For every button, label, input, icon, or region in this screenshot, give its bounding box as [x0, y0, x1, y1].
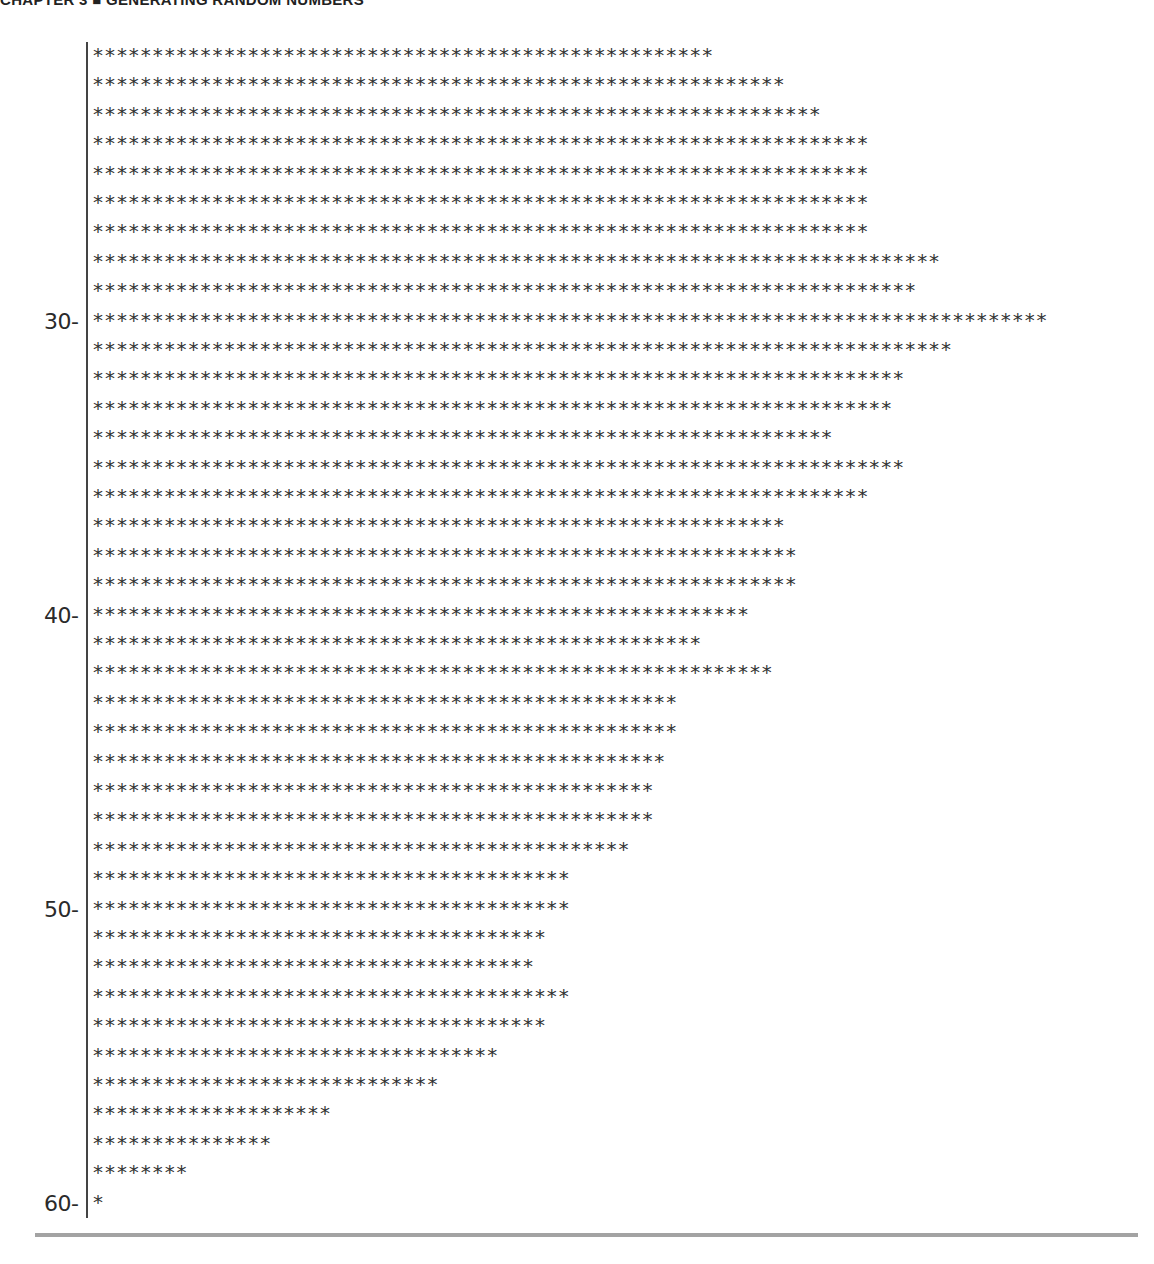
histogram-bar: ********************: [92, 1102, 331, 1126]
axis-line: [86, 542, 88, 571]
histogram-bar: **************************************: [92, 926, 546, 950]
axis-line: [86, 659, 88, 688]
histogram-bar: ****************************************…: [92, 279, 916, 303]
histogram-row: ****************************************…: [0, 542, 1154, 571]
axis-line: [86, 336, 88, 365]
axis-line: [86, 1159, 88, 1188]
axis-line: [86, 512, 88, 541]
histogram-row: 50-*************************************…: [0, 895, 1154, 924]
axis-line: [86, 630, 88, 659]
axis-line: [86, 895, 88, 924]
histogram-bar: ********: [92, 1161, 188, 1185]
axis-line: [86, 689, 88, 718]
histogram-bar: ****************************************…: [92, 338, 952, 362]
running-head: CHAPTER 3 ■ GENERATING RANDOM NUMBERS: [0, 0, 364, 8]
axis-line: [86, 189, 88, 218]
histogram-row: ********************: [0, 1100, 1154, 1129]
histogram-row: 60-*: [0, 1189, 1154, 1218]
axis-line: [86, 777, 88, 806]
histogram-bar: ****************************************…: [92, 103, 821, 127]
axis-tick-label: 40-: [44, 603, 86, 628]
axis-line: [86, 1130, 88, 1159]
histogram-row: ****************************************…: [0, 336, 1154, 365]
histogram-row: ****************************************…: [0, 365, 1154, 394]
axis-line: [86, 601, 88, 630]
histogram-bar: **************************************: [92, 1014, 546, 1038]
axis-line: [86, 1042, 88, 1071]
axis-tick-label: 50-: [44, 897, 86, 922]
histogram-bar: ****************************************…: [92, 250, 940, 274]
histogram-bar: ****************************************…: [92, 838, 629, 862]
histogram-bar: ****************************************…: [92, 750, 665, 774]
histogram-row: ****************************************…: [0, 748, 1154, 777]
histogram-bar: ****************************************: [92, 867, 570, 891]
histogram-bar: ****************************************…: [92, 309, 1048, 333]
axis-line: [86, 836, 88, 865]
axis-line: [86, 1071, 88, 1100]
histogram-row: ****************************************…: [0, 659, 1154, 688]
histogram-bar: ****************************************: [92, 897, 570, 921]
histogram-bar: ****************************************…: [92, 44, 713, 68]
axis-line: [86, 483, 88, 512]
histogram-bar: *****************************: [92, 1073, 438, 1097]
histogram-row: **************************************: [0, 924, 1154, 953]
histogram-row: ****************************************…: [0, 483, 1154, 512]
histogram-row: ****************************************…: [0, 836, 1154, 865]
histogram-row: ****************************************…: [0, 512, 1154, 541]
histogram-bar: ****************************************…: [92, 485, 868, 509]
axis-line: [86, 248, 88, 277]
histogram-bar: ****************************************…: [92, 603, 749, 627]
histogram-bar: ****************************************…: [92, 691, 677, 715]
histogram-bar: ****************************************…: [92, 162, 868, 186]
axis-line: [86, 571, 88, 600]
histogram-row: ****************************************: [0, 983, 1154, 1012]
axis-line: [86, 101, 88, 130]
histogram-bar: ****************************************…: [92, 808, 653, 832]
histogram-row: ****************************************…: [0, 101, 1154, 130]
axis-line: [86, 806, 88, 835]
axis-line: [86, 130, 88, 159]
histogram-bar: *: [92, 1191, 104, 1215]
axis-line: [86, 924, 88, 953]
histogram-bar: ****************************************…: [92, 397, 892, 421]
histogram-row: **********************************: [0, 1042, 1154, 1071]
histogram-row: **************************************: [0, 1012, 1154, 1041]
histogram-bar: ****************************************…: [92, 456, 904, 480]
axis-line: [86, 307, 88, 336]
axis-line: [86, 277, 88, 306]
histogram-row: ****************************************…: [0, 806, 1154, 835]
histogram-bar: ****************************************…: [92, 73, 785, 97]
axis-line: [86, 424, 88, 453]
histogram-row: ****************************************…: [0, 42, 1154, 71]
histogram-bar: ****************************************…: [92, 544, 797, 568]
histogram-row: 40-*************************************…: [0, 601, 1154, 630]
axis-line: [86, 42, 88, 71]
histogram-row: ****************************************…: [0, 189, 1154, 218]
histogram-bar: ****************************************…: [92, 220, 868, 244]
axis-line: [86, 365, 88, 394]
histogram-bar: ****************************************: [92, 985, 570, 1009]
axis-line: [86, 865, 88, 894]
histogram-row: ****************************************: [0, 865, 1154, 894]
histogram-row: ****************************************…: [0, 395, 1154, 424]
histogram-bar: ****************************************…: [92, 426, 833, 450]
axis-line: [86, 718, 88, 747]
histogram-bar: ****************************************…: [92, 632, 701, 656]
histogram-bar: ****************************************…: [92, 132, 868, 156]
histogram-row: ****************************************…: [0, 777, 1154, 806]
axis-line: [86, 748, 88, 777]
histogram-bar: ****************************************…: [92, 779, 653, 803]
axis-line: [86, 1012, 88, 1041]
histogram-row: *************************************: [0, 953, 1154, 982]
histogram-row: ****************************************…: [0, 218, 1154, 247]
histogram-bar: ****************************************…: [92, 191, 868, 215]
histogram-row: *****************************: [0, 1071, 1154, 1100]
histogram-row: ****************************************…: [0, 130, 1154, 159]
axis-line: [86, 71, 88, 100]
histogram-row: ****************************************…: [0, 160, 1154, 189]
histogram-row: ****************************************…: [0, 424, 1154, 453]
histogram-row: ****************************************…: [0, 571, 1154, 600]
histogram-row: ****************************************…: [0, 689, 1154, 718]
axis-line: [86, 454, 88, 483]
axis-line: [86, 1189, 88, 1218]
